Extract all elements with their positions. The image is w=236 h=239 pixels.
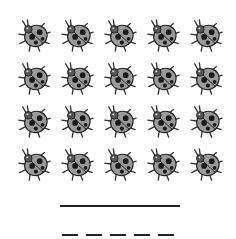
- answer-line: [60, 205, 180, 207]
- ladybug-icon: [187, 145, 225, 183]
- ladybug-icon: [58, 145, 96, 183]
- dash-blank: [134, 234, 150, 236]
- ladybug-icon: [144, 145, 182, 183]
- dash-blank: [110, 234, 126, 236]
- ladybug-icon: [58, 16, 96, 54]
- ladybug-icon: [187, 59, 225, 97]
- dash-blank: [86, 234, 102, 236]
- ladybug-icon: [15, 59, 53, 97]
- ladybug-icon: [144, 16, 182, 54]
- ladybug-icon: [58, 59, 96, 97]
- ladybug-icon: [187, 16, 225, 54]
- ladybug-icon: [144, 102, 182, 140]
- ladybug-icon: [187, 102, 225, 140]
- dash-blanks: [62, 234, 174, 236]
- dash-blank: [158, 234, 174, 236]
- ladybug-icon: [15, 16, 53, 54]
- ladybug-icon: [15, 102, 53, 140]
- ladybug-icon: [101, 59, 139, 97]
- ladybug-icon: [144, 59, 182, 97]
- ladybug-icon: [101, 145, 139, 183]
- ladybug-icon: [15, 145, 53, 183]
- dash-blank: [62, 234, 78, 236]
- ladybug-icon: [101, 16, 139, 54]
- ladybug-icon: [101, 102, 139, 140]
- ladybug-icon: [58, 102, 96, 140]
